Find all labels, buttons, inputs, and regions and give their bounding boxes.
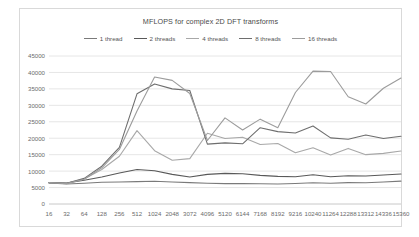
y-axis-tick-label: 5000 <box>20 184 45 191</box>
y-axis-tick-label: 45000 <box>20 52 45 59</box>
y-axis-tick-label: 30000 <box>20 102 45 109</box>
plot-svg <box>20 9 403 228</box>
plot-area: 0500010000150002000025000300003500040000… <box>20 9 401 226</box>
chart-container: MFLOPS for complex 2D DFT transforms 1 t… <box>19 8 402 227</box>
y-axis-tick-label: 20000 <box>20 135 45 142</box>
y-axis-tick-label: 25000 <box>20 118 45 125</box>
series-line-1-thread <box>49 181 401 184</box>
x-axis-tick-label: 15360 <box>388 210 414 217</box>
y-axis-tick-label: 40000 <box>20 69 45 76</box>
y-axis-tick-label: 15000 <box>20 151 45 158</box>
y-axis-tick-label: 10000 <box>20 168 45 175</box>
y-axis-tick-label: 35000 <box>20 85 45 92</box>
y-axis-tick-label: 0 <box>20 200 45 207</box>
